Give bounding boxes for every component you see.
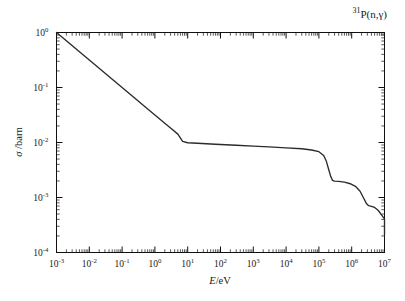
x-tick-label: 101	[181, 257, 194, 269]
figure-container: 31P(n,γ) 10-310-210-11001011021031041051…	[0, 0, 405, 301]
x-tick-label: 105	[312, 257, 326, 269]
x-tick-label: 102	[214, 257, 228, 269]
y-axis-tick-labels: 10010-110-210-310-4	[33, 26, 49, 258]
x-axis-ticks	[57, 33, 385, 253]
x-tick-label: 10-1	[115, 257, 130, 269]
x-tick-label: 10-2	[82, 257, 98, 269]
x-tick-label: 106	[345, 257, 359, 269]
cross-section-plot: 10-310-210-1100101102103104105106107 100…	[0, 0, 405, 301]
x-tick-label: 103	[247, 257, 260, 269]
y-axis-title: σ /barn	[13, 127, 24, 157]
y-tick-label: 10-2	[33, 136, 49, 148]
y-tick-label: 10-1	[33, 81, 48, 93]
x-axis-title: E/eV	[208, 275, 231, 286]
x-tick-label: 10-3	[49, 257, 65, 269]
plot-frame	[57, 33, 385, 253]
x-axis-tick-labels: 10-310-210-1100101102103104105106107	[49, 257, 392, 269]
y-tick-label: 100	[36, 26, 50, 38]
y-axis-ticks	[57, 33, 385, 253]
y-tick-label: 10-3	[33, 191, 49, 203]
y-tick-label: 10-4	[33, 246, 49, 258]
x-tick-label: 107	[378, 257, 392, 269]
axis-frame	[57, 33, 385, 253]
x-tick-label: 104	[280, 257, 294, 269]
x-tick-label: 100	[148, 257, 162, 269]
data-curve	[57, 33, 385, 235]
